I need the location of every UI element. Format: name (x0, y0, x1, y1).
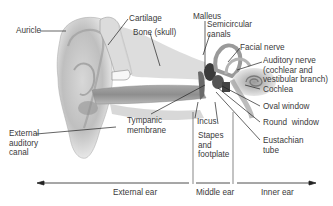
label-cartilage: Cartilage (129, 14, 162, 24)
region-axis (37, 181, 316, 185)
label-round-window: Round window (263, 118, 319, 128)
label-incus: Incus (197, 117, 217, 127)
label-cochlea: Cochlea (263, 85, 293, 95)
auditory-canal-shape (92, 85, 206, 120)
label-tympanic-membrane: Tympanic membrane (127, 116, 166, 135)
region-label-external-ear: External ear (113, 188, 157, 198)
label-oval-window: Oval window (263, 102, 309, 112)
cartilage-shape (100, 17, 208, 80)
region-label-inner-ear: Inner ear (261, 188, 294, 198)
label-eustachian-tube: Eustachian tube (263, 136, 304, 155)
region-label-middle-ear: Middle ear (196, 188, 234, 198)
label-stapes-footplate: Stapes and footplate (198, 131, 229, 160)
label-auricle: Auricle (16, 26, 41, 36)
label-facial-nerve: Facial nerve (240, 43, 285, 53)
label-auditory-nerve: Auditory nerve (cochlear and vestibular … (263, 56, 328, 85)
label-bone-skull: Bone (skull) (133, 28, 176, 38)
label-semicircular-canals: Semicircular canals (207, 20, 252, 39)
label-external-auditory-canal: External auditory canal (9, 129, 39, 158)
ear-anatomy-diagram: Auricle Cartilage Malleus Bone (skull) S… (0, 0, 333, 206)
